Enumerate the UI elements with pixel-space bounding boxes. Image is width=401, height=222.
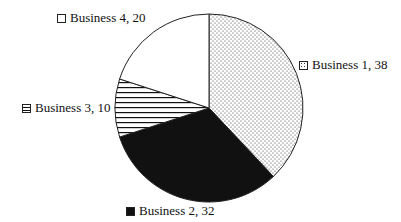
label-business-3: Business 3, 10: [22, 101, 110, 115]
dotted-swatch-icon: [299, 61, 308, 70]
label-business-2: Business 2, 32: [126, 204, 214, 218]
lined-swatch-icon: [22, 104, 31, 113]
label-business-4: Business 4, 20: [57, 11, 145, 25]
label-business-1: Business 1, 38: [299, 58, 387, 72]
white-swatch-icon: [57, 14, 66, 23]
solid-swatch-icon: [126, 207, 135, 216]
